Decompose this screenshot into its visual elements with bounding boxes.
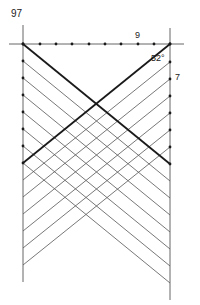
right-dot: [169, 163, 172, 166]
ascending-line: [23, 96, 170, 214]
ascending-line: [23, 113, 170, 231]
lattice-diagram: [0, 0, 200, 305]
left-dot: [22, 128, 25, 131]
top-dot: [137, 43, 140, 46]
descending-line: [23, 163, 170, 283]
top-dot: [104, 43, 107, 46]
top-dot: [55, 43, 58, 46]
top-dot: [153, 43, 156, 46]
right-dot: [169, 95, 172, 98]
right-dot: [169, 78, 172, 81]
ascending-line: [23, 130, 170, 248]
ascending-line: [23, 79, 170, 197]
angle-label: 52°: [151, 54, 165, 63]
left-dot: [22, 77, 25, 80]
right-dot: [169, 129, 172, 132]
right-dot: [169, 146, 172, 149]
left-dot: [22, 111, 25, 114]
top-dot: [88, 43, 91, 46]
right-dot: [169, 112, 172, 115]
ascending-line: [23, 147, 170, 265]
top-dot: [71, 43, 74, 46]
thin-diagonal-lines: [23, 61, 170, 283]
bold-diagonal-lines: [23, 44, 170, 164]
left-dot: [22, 94, 25, 97]
left-dot: [22, 43, 25, 46]
ascending-line: [23, 62, 170, 180]
right-dot: [169, 43, 172, 46]
top-dot: [39, 43, 42, 46]
top-division-label: 9: [135, 31, 140, 40]
side-division-label: 7: [175, 73, 180, 82]
left-dot: [22, 60, 25, 63]
left-dot: [22, 145, 25, 148]
left-dot: [22, 162, 25, 165]
right-dot: [169, 61, 172, 64]
figure-number: 97: [11, 9, 22, 19]
frame-lines: [9, 25, 184, 300]
top-dot: [120, 43, 123, 46]
